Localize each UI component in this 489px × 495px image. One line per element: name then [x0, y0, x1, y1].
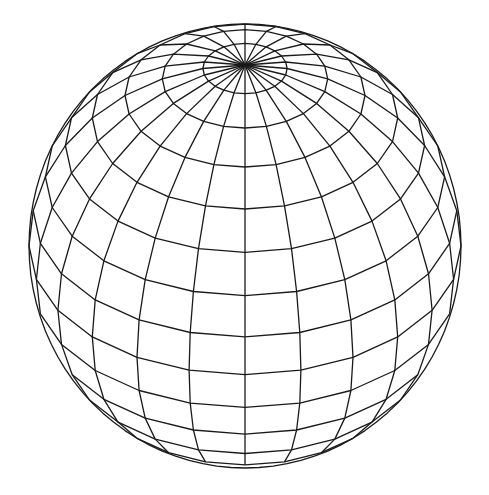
meridian-line [92, 65, 245, 438]
meridian-line [29, 65, 245, 246]
meridian-line [36, 65, 245, 314]
meridian-line [245, 65, 398, 438]
meridian-lines [29, 24, 461, 465]
meridian-line [245, 65, 454, 314]
sphere-diagram [0, 0, 489, 495]
meridian-line [58, 65, 245, 400]
wireframe-sphere [0, 0, 489, 495]
meridian-line [245, 65, 432, 400]
meridian-line [245, 65, 461, 246]
